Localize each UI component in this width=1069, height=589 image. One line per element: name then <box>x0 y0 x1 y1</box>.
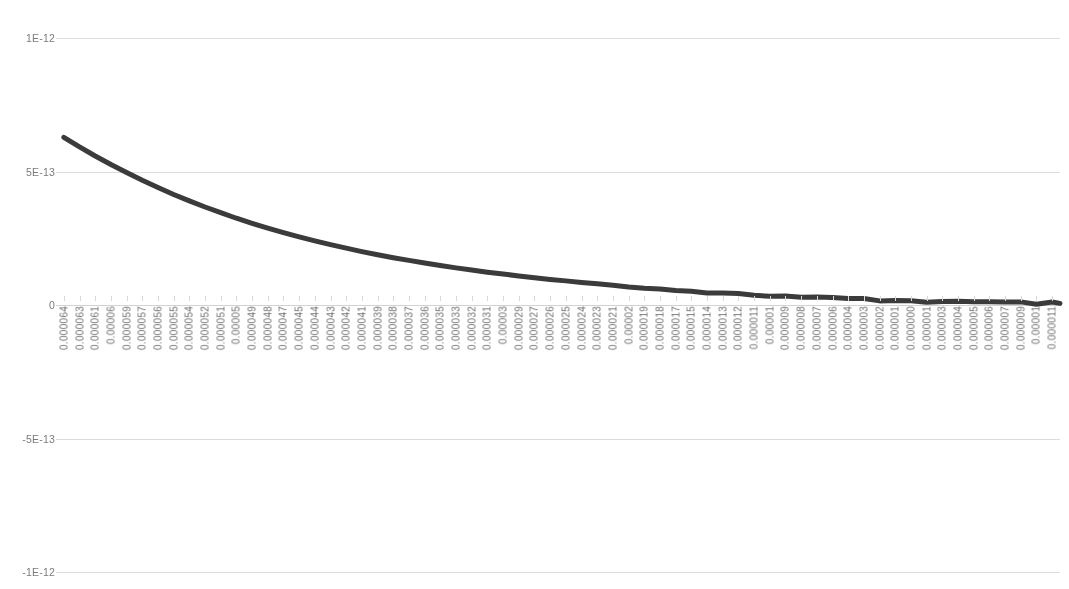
x-axis-tick-label: 0.00001 <box>1031 306 1042 344</box>
series-path <box>64 137 1060 304</box>
x-axis-tick-mark <box>189 296 190 301</box>
x-axis-tick: 0.000026 <box>543 302 557 410</box>
x-axis-tick: 0.000027 <box>527 302 541 410</box>
x-axis-tick: 0.000038 <box>386 302 400 410</box>
x-axis-tick-mark <box>848 296 849 301</box>
x-axis-tick: 0.000006 <box>982 302 996 410</box>
x-axis-tick: 0.000064 <box>57 302 71 410</box>
x-axis-tick: 0.000036 <box>418 302 432 410</box>
x-axis-tick-mark <box>378 296 379 301</box>
x-axis-tick-label: 0.000011 <box>749 306 760 349</box>
x-axis-tick-label: 0.000027 <box>529 306 540 350</box>
x-axis-tick-mark <box>707 296 708 301</box>
x-axis-tick-label: 0.000039 <box>372 306 383 350</box>
x-axis-tick-mark <box>409 296 410 301</box>
x-axis-tick-label: 0.000057 <box>137 306 148 350</box>
x-axis-tick-mark <box>833 296 834 301</box>
x-axis-tick-mark <box>80 296 81 301</box>
x-axis-tick: 0.00005 <box>229 302 243 410</box>
x-axis-tick-mark <box>142 296 143 301</box>
x-axis-tick-label: 0.00003 <box>498 306 509 344</box>
x-axis-tick-label: 0.000004 <box>953 306 964 350</box>
x-axis-tick-mark <box>613 296 614 301</box>
x-axis-tick-mark <box>723 296 724 301</box>
x-axis-tick-label: 0.000061 <box>90 306 101 350</box>
x-axis-tick-mark <box>393 296 394 301</box>
x-axis-tick-label: 0.000007 <box>811 306 822 350</box>
x-axis-tick-label: 0.000008 <box>796 306 807 350</box>
x-axis-tick-mark <box>958 296 959 301</box>
x-axis-tick: 0.000004 <box>951 302 965 410</box>
x-axis-tick: 0.000014 <box>700 302 714 410</box>
x-axis-tick: 0.000000 <box>904 302 918 410</box>
x-axis-tick-mark <box>95 296 96 301</box>
x-axis-tick-label: 0.000035 <box>435 306 446 350</box>
x-axis-tick-mark <box>942 296 943 301</box>
x-axis-tick-mark <box>425 296 426 301</box>
x-axis-tick-mark <box>440 296 441 301</box>
x-axis-tick-label: 0.000044 <box>309 306 320 350</box>
x-axis-tick-mark <box>127 296 128 301</box>
x-axis-tick-mark <box>989 296 990 301</box>
x-axis-tick-label: 0.000004 <box>843 306 854 350</box>
x-axis-tick-mark <box>629 296 630 301</box>
x-axis-tick-mark <box>64 296 65 301</box>
x-axis-tick-label: 0.000033 <box>451 306 462 350</box>
x-axis-tick: 0.000035 <box>433 302 447 410</box>
x-axis-tick: 0.000054 <box>182 302 196 410</box>
x-axis-tick: 0.000017 <box>669 302 683 410</box>
x-axis-tick-label: 0.000013 <box>717 306 728 350</box>
x-axis-tick-mark <box>754 296 755 301</box>
x-axis-tick-label: 0.000054 <box>184 306 195 350</box>
x-axis-tick: 0.00001 <box>763 302 777 410</box>
x-axis-tick-label: 0.000047 <box>278 306 289 350</box>
x-axis-tick: 0.000007 <box>810 302 824 410</box>
x-axis-tick-mark <box>644 296 645 301</box>
x-axis-tick: 0.000055 <box>167 302 181 410</box>
x-axis-tick: 0.000043 <box>324 302 338 410</box>
x-axis-tick: 0.000009 <box>1014 302 1028 410</box>
x-axis-tick-label: 0.000011 <box>1047 306 1058 349</box>
x-axis-tick-mark <box>111 296 112 301</box>
x-axis-tick: 0.00002 <box>622 302 636 410</box>
x-axis-tick-mark <box>597 296 598 301</box>
x-axis-tick-label: 0.00006 <box>105 306 116 344</box>
x-axis-tick: 0.000045 <box>292 302 306 410</box>
x-axis-tick: 0.000025 <box>559 302 573 410</box>
x-axis-tick-label: 0.000049 <box>247 306 258 350</box>
x-axis-tick: 0.000004 <box>841 302 855 410</box>
x-axis-tick-mark <box>472 296 473 301</box>
x-axis-tick-mark <box>487 296 488 301</box>
x-axis-tick-mark <box>660 296 661 301</box>
x-axis-tick: 0.00006 <box>104 302 118 410</box>
x-axis-tick: 0.000063 <box>73 302 87 410</box>
x-axis-tick-mark <box>362 296 363 301</box>
x-axis-tick-label: 0.000012 <box>733 306 744 350</box>
x-axis-tick-label: 0.000059 <box>121 306 132 350</box>
x-axis-tick-mark <box>1021 296 1022 301</box>
x-axis-tick-label: 0.000036 <box>419 306 430 350</box>
x-axis-tick-mark <box>315 296 316 301</box>
x-axis-tick: 0.000009 <box>778 302 792 410</box>
x-axis-tick-mark <box>550 296 551 301</box>
x-axis-tick-label: 0.000026 <box>545 306 556 350</box>
x-axis-tick-label: 0.000014 <box>702 306 713 350</box>
gridline <box>56 572 1060 573</box>
x-axis-tick: 0.000019 <box>637 302 651 410</box>
x-axis-tick-label: 0.000038 <box>388 306 399 350</box>
x-axis-tick-label: 0.000006 <box>827 306 838 350</box>
x-axis-tick-label: 0.000037 <box>403 306 414 350</box>
x-axis-tick-mark <box>691 296 692 301</box>
x-axis-tick-label: 0.000021 <box>607 306 618 350</box>
x-axis-tick-mark <box>268 296 269 301</box>
x-axis-tick-label: 0.000031 <box>482 306 493 350</box>
x-axis-tick-label: 0.000009 <box>1015 306 1026 350</box>
x-axis-tick: 0.000021 <box>606 302 620 410</box>
x-axis-tick-mark <box>927 296 928 301</box>
x-axis-tick: 0.000006 <box>826 302 840 410</box>
x-axis-tick-label: 0.000052 <box>200 306 211 350</box>
x-axis-tick: 0.000005 <box>967 302 981 410</box>
x-axis-tick-label: 0.000024 <box>576 306 587 350</box>
x-axis-tick-label: 0.000009 <box>780 306 791 350</box>
x-axis-tick-mark <box>1036 296 1037 301</box>
